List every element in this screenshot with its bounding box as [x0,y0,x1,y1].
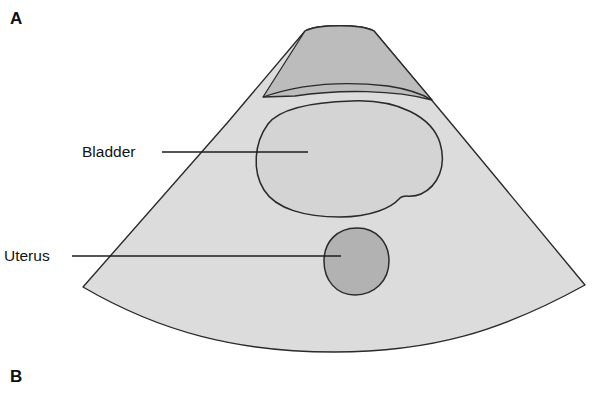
uterus-outline [324,228,389,295]
annotation-label-uterus: Uterus [4,248,50,264]
near-field-band [263,26,432,100]
panel-letter-b: B [10,368,22,385]
ultrasound-figure: A B Bladder Uterus [0,0,595,394]
ultrasound-scan-diagram [0,0,595,394]
annotation-label-bladder: Bladder [82,144,135,160]
panel-letter-a: A [10,10,22,27]
